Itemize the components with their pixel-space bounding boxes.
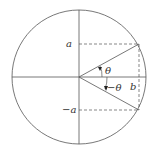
label-b: b <box>130 81 136 92</box>
label-neg-a: −a <box>62 104 76 115</box>
circle-diagram: a −a θ −θ b <box>0 0 151 149</box>
label-theta: θ <box>105 65 111 76</box>
label-neg-theta: −θ <box>107 82 121 93</box>
label-a: a <box>66 38 72 49</box>
